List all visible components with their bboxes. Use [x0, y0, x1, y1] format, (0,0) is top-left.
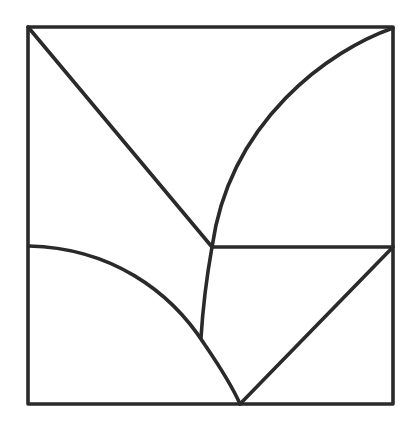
geometric-dissection-diagram	[0, 0, 416, 428]
arc-top-right-to-junction	[212, 28, 393, 247]
curve-junction-to-inner-meet	[201, 247, 212, 338]
diagonal-bottom-point-to-right-mid	[240, 247, 393, 404]
outer-square	[28, 27, 393, 404]
diagonal-top-left-to-junction	[28, 27, 212, 247]
